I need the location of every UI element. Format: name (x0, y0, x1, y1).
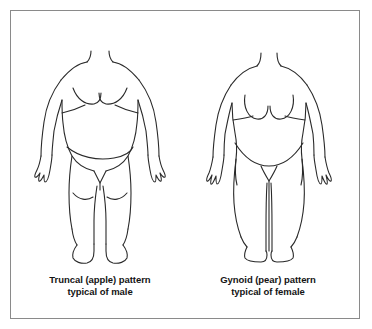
arm-left-outer (213, 85, 231, 157)
truncal-apple-body-outline (15, 23, 185, 268)
gynoid-pear-body-outline (183, 23, 353, 268)
leg-right-inner (271, 183, 272, 251)
male-caption-line-1: Truncal (apple) pattern (15, 274, 185, 286)
ankle-left (241, 237, 247, 247)
neck-right-line (109, 51, 113, 62)
arm-right-inner (306, 103, 314, 155)
foot-left (245, 247, 267, 262)
figure-border-frame: Truncal (apple) pattern typical of male … (10, 10, 360, 319)
shoulder-right-line (281, 66, 307, 85)
leg-left-inner (266, 183, 267, 251)
neck-left-line (87, 51, 91, 62)
hand-left (35, 155, 52, 182)
abdominal-fold (67, 147, 133, 159)
foot-left (73, 244, 94, 263)
torso-right-outline (106, 100, 138, 171)
female-figure-panel (183, 23, 353, 268)
hand-right (148, 155, 165, 182)
knee-right-crease (107, 193, 127, 199)
groin-line (94, 171, 106, 183)
neck-left-line (257, 53, 261, 66)
arm-right-outer (307, 85, 325, 157)
breast-left (245, 95, 268, 119)
leg-left-outer (69, 156, 72, 229)
abdominal-fold (235, 143, 303, 166)
ankle-right (291, 237, 297, 247)
chest-crease-right (115, 105, 138, 113)
male-figure-caption: Truncal (apple) pattern typical of male (15, 274, 185, 297)
male-figure-panel (15, 23, 185, 268)
obesity-fat-distribution-figure: Truncal (apple) pattern typical of male … (0, 0, 372, 329)
neck-right-line (277, 53, 281, 66)
shoulder-left-line (231, 66, 257, 85)
calf-left-outer (72, 229, 77, 245)
arm-left-inner (52, 100, 62, 155)
knee-left-crease (73, 193, 93, 199)
female-caption-line-1: Gynoid (pear) pattern (183, 274, 353, 286)
under-breast-crease-right (285, 116, 305, 120)
arm-right-outer (139, 80, 159, 156)
leg-right-inner (103, 186, 106, 244)
leg-left-inner (94, 186, 97, 244)
male-caption-line-2: typical of male (15, 286, 185, 298)
leg-right-outer (128, 156, 131, 229)
foot-right (271, 247, 293, 262)
arm-left-inner (224, 103, 232, 155)
female-caption-line-2: typical of female (183, 286, 353, 298)
arm-right-inner (138, 100, 148, 155)
chest-crease-left (62, 105, 85, 113)
calf-right-outer (123, 229, 128, 245)
leg-right-outer (297, 159, 304, 237)
shoulder-right-line (113, 62, 139, 80)
breast-right (270, 95, 293, 119)
foot-right (106, 244, 127, 263)
arm-left-outer (41, 80, 61, 156)
leg-left-outer (234, 159, 241, 237)
shoulder-left-line (61, 62, 87, 80)
hand-left (207, 155, 224, 184)
pectoral-right-fold (99, 88, 127, 104)
hand-right (314, 155, 331, 184)
female-figure-caption: Gynoid (pear) pattern typical of female (183, 274, 353, 297)
under-breast-crease-left (233, 116, 253, 120)
pectoral-left-fold (73, 88, 101, 104)
torso-left-outline (62, 100, 94, 171)
groin-line (261, 166, 277, 181)
